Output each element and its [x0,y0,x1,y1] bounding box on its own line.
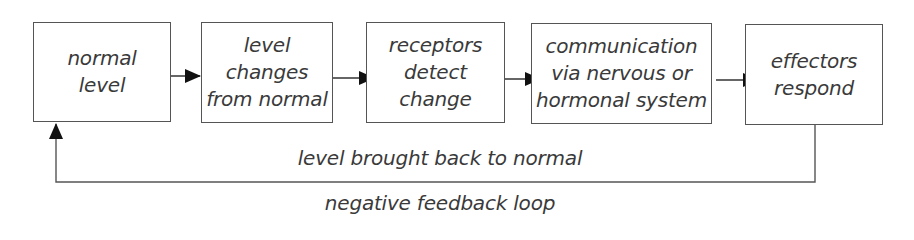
box-text-line: hormonal system [536,87,707,114]
box-text-line: communication [545,33,697,60]
box-text-line: effectors [771,48,858,75]
box-text-line: respond [774,75,854,102]
box-text-line: level [244,32,291,59]
box-text-line: receptors [389,32,482,59]
box-communication: communication via nervous or hormonal sy… [531,23,712,124]
box-text-line: change [399,86,471,113]
box-text-line: level [79,72,126,99]
box-receptors-detect: receptors detect change [366,22,505,123]
feedback-label: level brought back to normal [298,146,582,170]
box-text-line: via nervous or [551,60,691,87]
box-text-line: detect [404,59,467,86]
box-effectors-respond: effectors respond [745,24,883,125]
box-text-line: changes [226,59,309,86]
box-text-line: normal [67,45,136,72]
diagram-caption: negative feedback loop [325,191,555,215]
box-text-line: from normal [206,86,328,113]
box-normal-level: normal level [33,22,171,122]
box-level-changes: level changes from normal [201,22,333,123]
